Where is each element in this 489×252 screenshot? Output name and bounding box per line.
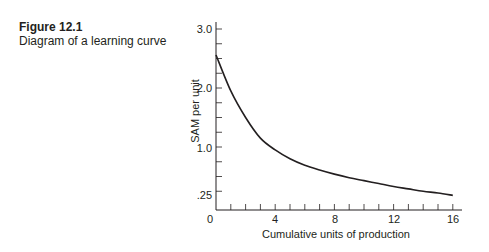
x-axis-label: Cumulative units of production — [262, 228, 410, 240]
y-axis-ticks — [216, 29, 222, 191]
x-tick-label: 12 — [388, 213, 400, 225]
learning-curve-chart: 3.0 2.0 1.0 .25 0 4 8 12 16 Cumulative u… — [0, 0, 489, 252]
x-tick-label: 8 — [332, 213, 338, 225]
x-tick-label: 4 — [272, 213, 278, 225]
x-axis-ticks — [231, 204, 453, 210]
y-tick-label: .25 — [197, 189, 212, 201]
y-axis-label: SAM per unit — [189, 79, 201, 143]
x-tick-label: 0 — [207, 213, 213, 225]
learning-curve-line — [216, 55, 453, 195]
x-tick-label: 16 — [447, 213, 459, 225]
y-tick-label: 3.0 — [197, 23, 212, 35]
y-tick-label: 1.0 — [197, 142, 212, 154]
